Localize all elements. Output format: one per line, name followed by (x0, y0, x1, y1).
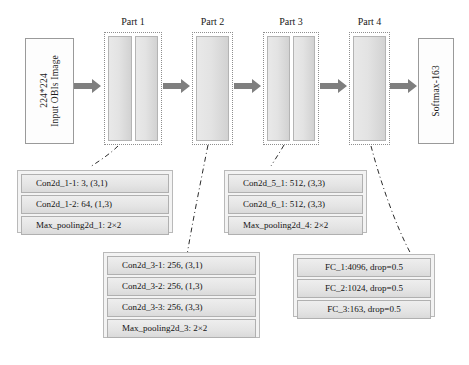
part3-slab-1 (267, 36, 290, 141)
connector-part2 (187, 145, 208, 255)
detail-row: Con2d_1-2: 64, (1,3) (21, 195, 169, 214)
detail-row: Max_pooling2d_3: 2×2 (107, 319, 256, 338)
detail-row: FC_1:4096, drop=0.5 (297, 258, 431, 277)
arrow-part4-output (390, 78, 418, 94)
detail-row: Con2d_3-3: 256, (3,3) (107, 298, 256, 317)
input-block-line1: 224*224 (39, 74, 49, 109)
cnn-architecture-diagram: 224*224 Input OBIs Image Part 1 Part 2 P… (0, 0, 469, 365)
detail-row: Max_pooling2d_1: 2×2 (21, 216, 169, 235)
connector-part3 (271, 145, 284, 166)
part2-slab-1 (196, 36, 229, 141)
detail-row: Con2d_1-1: 3, (3,1) (21, 174, 169, 193)
detail-row: Con2d_6_1: 512, (3,3) (228, 195, 363, 214)
connector-part4 (371, 146, 412, 256)
input-block-line2: Input OBIs Image (50, 55, 61, 127)
part1-label: Part 1 (121, 16, 145, 27)
connector-part1 (90, 146, 118, 167)
input-block: 224*224 Input OBIs Image (25, 38, 74, 144)
input-block-label: 224*224 Input OBIs Image (39, 55, 61, 127)
arrow-part3-part4 (320, 78, 348, 94)
detail-row: Con2d_3-2: 256, (1,3) (107, 277, 256, 296)
output-block-label: Softmax-163 (431, 65, 442, 117)
part-group-part2: Part 2 (192, 32, 233, 145)
detail-panel-part3: Con2d_5_1: 512, (3,3) Con2d_6_1: 512, (3… (224, 170, 367, 233)
part1-slab-1 (108, 36, 132, 141)
detail-panel-part2: Con2d_3-1: 256, (3,1) Con2d_3-2: 256, (1… (103, 252, 260, 338)
part4-label: Part 4 (358, 16, 382, 27)
detail-panel-part4: FC_1:4096, drop=0.5 FC_2:1024, drop=0.5 … (293, 254, 435, 317)
arrow-input-part1 (74, 78, 102, 94)
detail-row: Con2d_5_1: 512, (3,3) (228, 174, 363, 193)
arrow-part1-part2 (163, 78, 191, 94)
part3-slab-2 (293, 36, 316, 141)
arrow-part2-part3 (234, 78, 262, 94)
part4-slab-1 (353, 36, 386, 141)
part3-label: Part 3 (279, 16, 303, 27)
part-group-part1: Part 1 (104, 32, 162, 145)
detail-row: Con2d_3-1: 256, (3,1) (107, 256, 256, 275)
part-group-part3: Part 3 (263, 32, 319, 145)
part-group-part4: Part 4 (349, 32, 390, 145)
part2-label: Part 2 (201, 16, 225, 27)
detail-row: FC_2:1024, drop=0.5 (297, 279, 431, 298)
part1-slab-2 (135, 36, 159, 141)
detail-row: Max_pooling2d_4: 2×2 (228, 216, 363, 235)
detail-row: FC_3:163, drop=0.5 (297, 300, 431, 319)
detail-panel-part1: Con2d_1-1: 3, (3,1) Con2d_1-2: 64, (1,3)… (17, 170, 173, 233)
output-block: Softmax-163 (418, 38, 454, 144)
